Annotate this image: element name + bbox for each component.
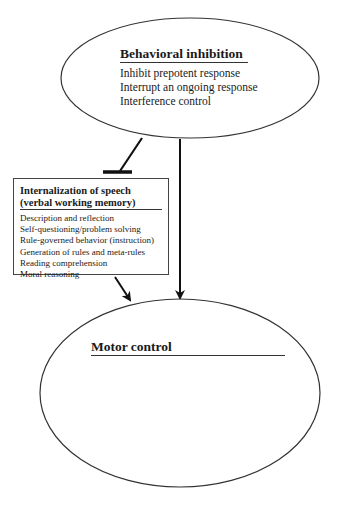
internalization-item: Generation of rules and meta-rules xyxy=(20,247,168,258)
internalization-item: Reading comprehension xyxy=(20,258,168,269)
internalization-title-line1: Internalization of speech xyxy=(20,185,168,197)
arrow-speech-to-motor xyxy=(115,277,130,300)
behavioral-inhibition-item: Interference control xyxy=(120,94,211,108)
behavioral-inhibition-item: Inhibit prepotent response xyxy=(120,66,240,80)
internalization-item: Rule-governed behavior (instruction) xyxy=(20,235,168,246)
internalization-item: Self-questioning/problem solving xyxy=(20,224,168,235)
internalization-title-line2: (verbal working memory) xyxy=(20,197,162,210)
motor-control-title: Motor control xyxy=(91,339,285,356)
internalization-of-speech-box: Internalization of speech (verbal workin… xyxy=(13,178,169,275)
internalization-item: Moral reasoning xyxy=(20,269,168,280)
internalization-title: Internalization of speech (verbal workin… xyxy=(14,179,168,210)
internalization-item: Description and reflection xyxy=(20,213,168,224)
inhibition-connector xyxy=(120,138,142,171)
internalization-items: Description and reflection Self-question… xyxy=(14,210,168,280)
behavioral-inhibition-item: Interrupt an ongoing response xyxy=(120,80,258,94)
behavioral-inhibition-title: Behavioral inhibition xyxy=(120,46,248,63)
motor-control-ellipse xyxy=(40,299,320,487)
